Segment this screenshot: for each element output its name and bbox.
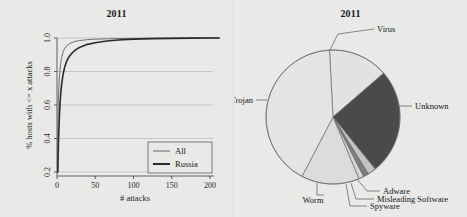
line-chart-panel: 2011 0 [0,0,233,217]
legend-label-russia: Russia [175,159,198,169]
pie-label-unknown: Unknown [415,101,449,111]
pie-chart-panel: 2011 Virus Unknown Adware Misleading Sof… [233,0,467,217]
y-tick-label-10: 1.0 [43,33,52,43]
pie-label-worm: Worm [302,195,323,205]
legend: All Russia [148,142,212,173]
y-tick-label-08: 0.8 [43,67,52,77]
x-axis-title: # attacks [120,193,150,203]
y-axis-tick-labels: 0.2 0.4 0.6 0.8 1.0 [43,33,52,177]
x-tick-label-200: 200 [204,181,216,190]
y-axis-title: % hosts with <= x attacks [24,61,34,149]
pie-label-trojan: Trojan [234,95,254,105]
x-axis-ticks [57,176,210,179]
pie-label-spyware: Spyware [370,201,400,211]
pie-label-virus: Virus [377,24,395,34]
y-tick-label-06: 0.6 [43,100,52,110]
y-tick-label-04: 0.4 [43,134,52,144]
y-axis-ticks [54,38,57,172]
x-tick-label-50: 50 [91,181,99,190]
legend-label-all: All [175,146,187,156]
pie-slices [266,50,400,184]
y-tick-label-02: 0.2 [43,167,52,177]
x-tick-label-150: 150 [166,181,178,190]
line-chart-svg: 0 50 100 150 200 # attacks 0.2 0.4 0.6 0… [0,0,233,217]
x-tick-label-100: 100 [128,181,140,190]
x-tick-label-0: 0 [55,181,59,190]
x-axis-tick-labels: 0 50 100 150 200 [55,181,216,190]
pie-chart-svg: Virus Unknown Adware Misleading Software… [234,0,467,217]
